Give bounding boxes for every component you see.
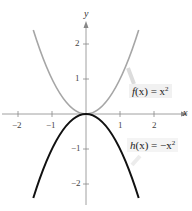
- h-function-label: h(x) = −x2: [127, 138, 178, 152]
- f-label-leader: [128, 68, 134, 84]
- f-label-body: (x) = x: [135, 85, 165, 97]
- f-function-label: f(x) = x2: [129, 84, 172, 98]
- y-tick-label: 2: [75, 39, 80, 48]
- x-tick-label: −1: [46, 121, 56, 130]
- chart-canvas: [0, 0, 192, 211]
- h-label-exponent: 2: [172, 139, 176, 147]
- y-tick-label: 1: [75, 74, 80, 83]
- y-tick-label: −2: [71, 179, 81, 188]
- y-axis-label: y: [84, 9, 88, 19]
- h-label-leader: [132, 156, 140, 165]
- f-label-exponent: 2: [165, 85, 169, 93]
- x-tick-label: 2: [152, 121, 157, 130]
- y-axis-arrow-icon: [84, 21, 89, 28]
- h-label-body: (x) = −x: [136, 139, 172, 151]
- x-tick-label: 1: [118, 121, 123, 130]
- y-tick-label: −1: [71, 144, 81, 153]
- x-axis-label: x: [183, 108, 187, 118]
- x-tick-label: −2: [12, 121, 22, 130]
